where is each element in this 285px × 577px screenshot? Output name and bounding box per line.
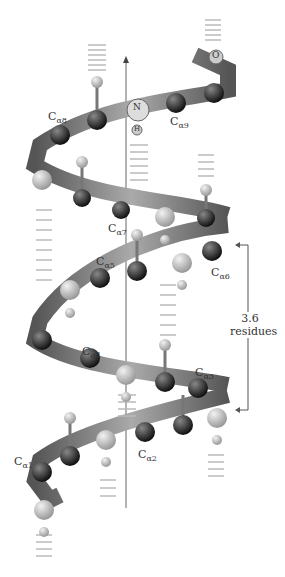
- label-calpha-2: Cα2: [138, 448, 157, 463]
- arrow-top-icon: [235, 242, 240, 248]
- atom-o: O: [212, 50, 219, 60]
- axis-arrow-icon: [123, 56, 129, 63]
- label-calpha-1: Cα1: [14, 455, 33, 470]
- bracket-label: 3.6 residues: [230, 312, 270, 338]
- label-calpha-4: Cα4: [82, 345, 101, 360]
- arrow-bottom-icon: [235, 407, 240, 413]
- label-calpha-3: Cα3: [195, 366, 214, 381]
- atom-n: N: [133, 102, 141, 112]
- bracket-value: 3.6: [230, 312, 270, 325]
- label-calpha-7: Cα7: [108, 222, 127, 237]
- label-calpha-6: Cα6: [211, 266, 230, 281]
- alpha-helix-diagram: [0, 0, 285, 577]
- label-calpha-9: Cα9: [170, 115, 189, 130]
- label-calpha-5: Cα5: [96, 255, 115, 270]
- label-calpha-8: Cα8: [48, 110, 67, 125]
- light-atoms: [32, 76, 227, 537]
- bracket-unit: residues: [230, 325, 270, 338]
- atom-h: H: [134, 125, 140, 133]
